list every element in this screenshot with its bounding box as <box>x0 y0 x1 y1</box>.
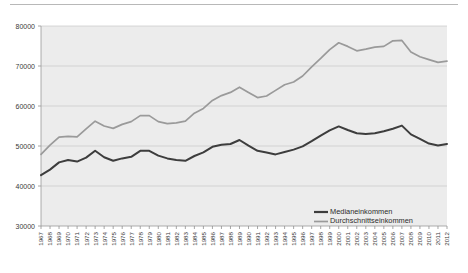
x-tick-label: 2000 <box>335 231 342 245</box>
x-tick-label: 1998 <box>317 231 324 245</box>
x-tick-label: 1984 <box>191 231 198 245</box>
x-tick-label: 1978 <box>137 231 144 245</box>
y-tick-label: 50000 <box>16 143 36 150</box>
legend-label: Durchschnittseinkommen <box>330 216 413 225</box>
plot-background <box>41 26 447 226</box>
x-tick-label: 1967 <box>37 231 44 245</box>
x-tick-label: 2003 <box>362 231 369 245</box>
legend-label: Medianeinkommen <box>330 207 392 216</box>
x-tick-label: 1982 <box>173 231 180 245</box>
x-tick-label: 2004 <box>371 231 378 245</box>
x-tick-label: 1993 <box>272 231 279 245</box>
x-tick-label: 2009 <box>416 231 423 245</box>
x-tick-label: 1968 <box>46 231 53 245</box>
x-tick-label: 1980 <box>155 231 162 245</box>
x-tick-label: 2005 <box>380 231 387 245</box>
x-tick-label: 1974 <box>101 231 108 245</box>
x-tick-label: 1977 <box>128 231 135 245</box>
y-tick-label: 60000 <box>16 103 36 110</box>
x-tick-label: 2007 <box>398 231 405 245</box>
y-tick-label: 40000 <box>16 183 36 190</box>
x-tick-label: 2008 <box>407 231 414 245</box>
x-tick-label: 1970 <box>64 231 71 245</box>
x-tick-label: 1983 <box>182 231 189 245</box>
x-tick-label: 2010 <box>425 231 432 245</box>
x-axis-ticks: 1967196819691970197119721973197419751976… <box>37 226 450 246</box>
y-axis-ticks: 300004000050000600007000080000 <box>16 23 41 230</box>
x-tick-label: 2011 <box>434 231 441 245</box>
x-tick-label: 1971 <box>73 231 80 245</box>
chart-canvas: 300004000050000600007000080000 196719681… <box>0 0 468 273</box>
x-tick-label: 1995 <box>290 231 297 245</box>
x-tick-label: 2012 <box>443 231 450 245</box>
x-tick-label: 1990 <box>245 231 252 245</box>
x-tick-label: 1973 <box>92 231 99 245</box>
x-tick-label: 1972 <box>83 231 90 245</box>
x-tick-label: 1994 <box>281 231 288 245</box>
x-tick-label: 1991 <box>254 231 261 245</box>
y-tick-label: 70000 <box>16 63 36 70</box>
x-tick-label: 1999 <box>326 231 333 245</box>
x-tick-label: 1986 <box>209 231 216 245</box>
x-tick-label: 2002 <box>353 231 360 245</box>
x-tick-label: 1987 <box>218 231 225 245</box>
x-tick-label: 1981 <box>164 231 171 245</box>
y-tick-label: 30000 <box>16 223 36 230</box>
income-line-chart: 300004000050000600007000080000 196719681… <box>0 0 468 273</box>
x-tick-label: 2001 <box>344 231 351 245</box>
x-tick-label: 1992 <box>263 231 270 245</box>
x-tick-label: 1985 <box>200 231 207 245</box>
x-tick-label: 1976 <box>119 231 126 245</box>
x-tick-label: 1989 <box>236 231 243 245</box>
x-tick-label: 1997 <box>308 231 315 245</box>
x-tick-label: 1988 <box>227 231 234 245</box>
x-tick-label: 1975 <box>110 231 117 245</box>
x-tick-label: 2006 <box>389 231 396 245</box>
x-tick-label: 1979 <box>146 231 153 245</box>
x-tick-label: 1996 <box>299 231 306 245</box>
x-tick-label: 1969 <box>55 231 62 245</box>
y-tick-label: 80000 <box>16 23 36 30</box>
